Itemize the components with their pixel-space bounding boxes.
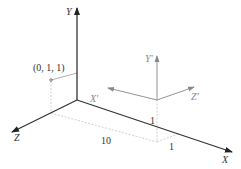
- x-prime-axis: [108, 88, 157, 100]
- z-axis-label: Z: [14, 132, 20, 143]
- z-depth-label: 1: [169, 141, 174, 152]
- z-prime-axis: [157, 87, 194, 100]
- y-axis-label: Y: [66, 6, 73, 17]
- coordinate-diagram: Y Z X Y' X' Z' (0, 1, 1) 10 1 1: [0, 0, 241, 169]
- x-length-label: 10: [101, 135, 111, 146]
- y-prime-label: Y': [145, 53, 154, 64]
- x-prime-label: X': [89, 93, 99, 104]
- z-axis: [12, 100, 77, 132]
- dashed-guides: [51, 81, 178, 142]
- point-connector: [51, 73, 77, 80]
- x-axis-label: X: [221, 154, 229, 165]
- y-height-label: 1: [150, 115, 155, 126]
- z-prime-label: Z': [191, 91, 200, 102]
- point-label: (0, 1, 1): [33, 62, 65, 74]
